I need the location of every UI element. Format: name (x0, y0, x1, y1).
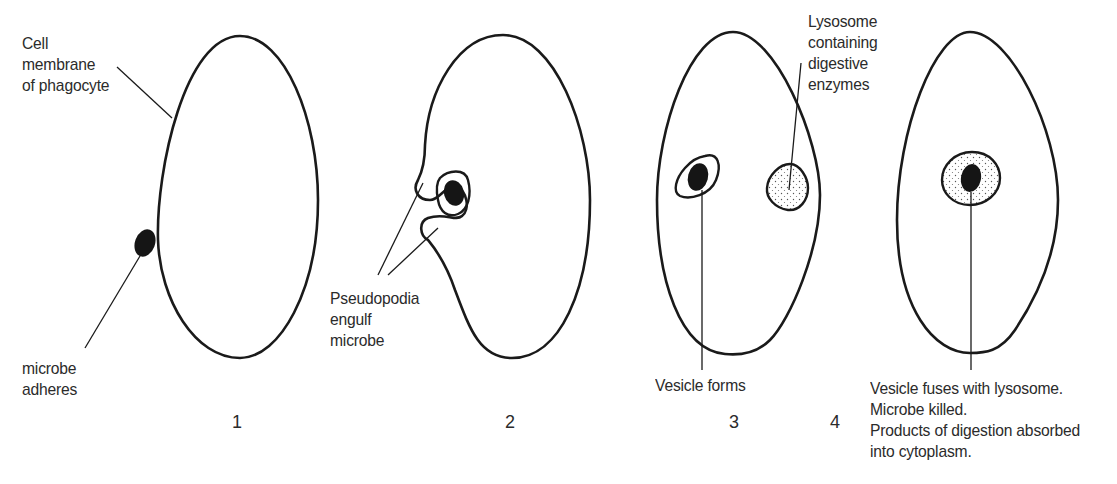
cell-membrane-2 (416, 35, 590, 358)
phagocytosis-diagram: Cell membrane of phagocyte microbe adher… (0, 0, 1117, 484)
microbe-pointer-line (85, 256, 140, 348)
pseudopodia-label: Pseudopodia engulf microbe (330, 288, 419, 351)
stage-number-1: 1 (232, 412, 242, 432)
stage-3-cell (657, 32, 820, 370)
cell-membrane-label: Cell membrane of phagocyte (22, 33, 109, 96)
stage-1-cell (85, 36, 318, 358)
microbe-2 (441, 178, 467, 208)
stage-number-2: 2 (505, 412, 515, 432)
pseudopodia-pointer-lower (388, 228, 438, 275)
microbe-1 (131, 226, 159, 259)
lysosome-label: Lysosome containing digestive enzymes (808, 11, 877, 95)
vesicle-fuses-label: Vesicle fuses with lysosome. Microbe kil… (870, 378, 1080, 462)
cell-membrane-1 (158, 36, 318, 358)
stage-number-4: 4 (830, 412, 840, 432)
lysosome-3 (767, 164, 808, 210)
stage-number-3: 3 (729, 412, 739, 432)
microbe-adheres-label: microbe adheres (22, 358, 77, 400)
stage-4-cell (897, 32, 1058, 370)
pseudopodia-pointer-upper (378, 183, 423, 275)
vesicle-forms-label: Vesicle forms (655, 375, 746, 396)
membrane-pointer-line (117, 67, 172, 118)
